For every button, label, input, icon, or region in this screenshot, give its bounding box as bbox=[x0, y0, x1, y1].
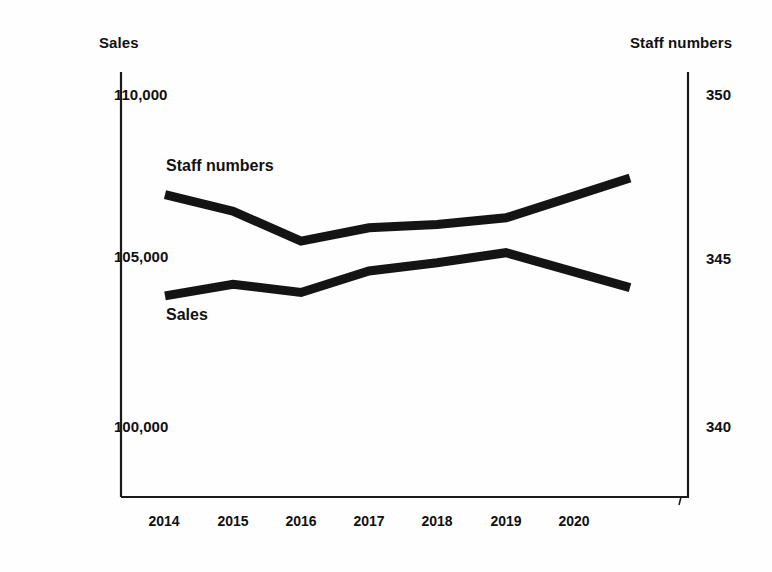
plot-area bbox=[0, 0, 772, 572]
series-line-staff-numbers bbox=[165, 178, 630, 241]
series-line-sales bbox=[165, 253, 630, 296]
x-axis-end-tick bbox=[679, 497, 681, 505]
chart-container: Sales Staff numbers 110,000 105,000 100,… bbox=[0, 0, 772, 572]
